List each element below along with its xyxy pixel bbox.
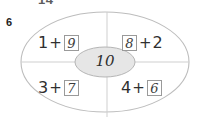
center-total-value: 10: [83, 54, 127, 69]
plus-operator: +: [138, 36, 153, 51]
answer-box[interactable]: 9: [64, 35, 79, 51]
term-first: 1: [38, 35, 48, 51]
equation-top-right: 8 + 2: [121, 35, 163, 51]
plus-operator: +: [131, 81, 146, 96]
answer-box[interactable]: 8: [122, 35, 137, 51]
plus-operator: +: [48, 36, 63, 51]
equation-bottom-left: 3 + 7: [38, 80, 80, 96]
worksheet-page: 14 6 10 1 + 9 8 + 2 3 + 7 4 + 6: [0, 0, 204, 117]
term-second: 2: [153, 35, 163, 51]
equation-bottom-right: 4 + 6: [121, 80, 163, 96]
answer-box[interactable]: 6: [147, 80, 162, 96]
term-first: 3: [38, 80, 48, 96]
plus-operator: +: [48, 81, 63, 96]
answer-box[interactable]: 7: [64, 80, 79, 96]
term-first: 4: [121, 80, 131, 96]
equation-top-left: 1 + 9: [38, 35, 80, 51]
